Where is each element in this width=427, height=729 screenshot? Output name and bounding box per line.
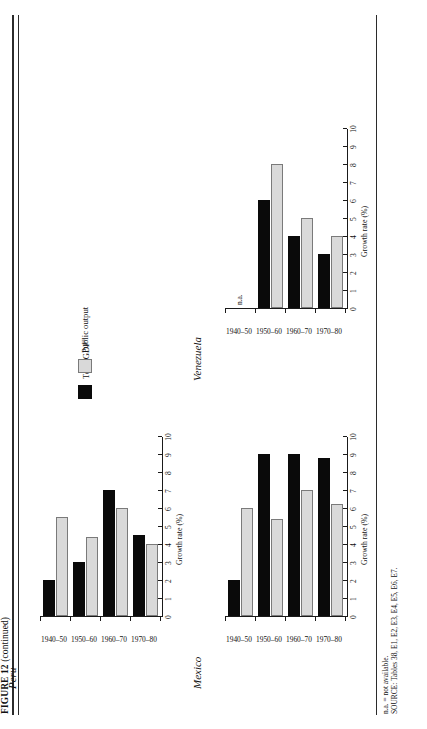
value-tick xyxy=(343,598,347,599)
value-tick xyxy=(158,580,162,581)
bar-public-output xyxy=(301,218,313,308)
value-tick xyxy=(158,562,162,563)
panel-title-venezuela: Venezuela xyxy=(191,337,203,381)
category-label: 1950–60 xyxy=(71,635,97,644)
value-tick xyxy=(343,254,347,255)
value-tick xyxy=(343,526,347,527)
category-label: 1940–50 xyxy=(226,327,252,336)
value-tick xyxy=(158,490,162,491)
category-tick xyxy=(255,309,256,313)
bar-total-gdp xyxy=(258,454,270,616)
value-tick-label: 2 xyxy=(350,263,358,283)
value-tick-label: 3 xyxy=(165,553,173,573)
bar-public-output xyxy=(86,537,98,616)
bar-total-gdp xyxy=(318,254,330,308)
category-tick xyxy=(285,617,286,621)
bar-public-output xyxy=(331,236,343,308)
value-tick xyxy=(343,164,347,165)
category-label: 1950–60 xyxy=(256,635,282,644)
bar-total-gdp xyxy=(228,580,240,616)
bar-public-output xyxy=(146,544,158,616)
value-tick xyxy=(343,128,347,129)
value-axis-line xyxy=(162,437,163,617)
value-tick xyxy=(343,146,347,147)
value-tick-label: 1 xyxy=(350,281,358,301)
na-label: n.a. xyxy=(235,294,244,305)
plot-area-mexico: 109876543210Growth rate (%)1940–501950–6… xyxy=(225,437,345,617)
bar-total-gdp xyxy=(318,458,330,616)
value-axis-line xyxy=(347,437,348,617)
value-tick xyxy=(158,508,162,509)
value-tick-label: 7 xyxy=(350,173,358,193)
bar-total-gdp xyxy=(73,562,85,616)
category-tick xyxy=(315,309,316,313)
plot-area-venezuela: 109876543210Growth rate (%)1940–50n.a.19… xyxy=(225,129,345,309)
category-label: 1970–80 xyxy=(316,635,342,644)
value-axis-title: Growth rate (%) xyxy=(360,514,369,565)
value-tick-label: 2 xyxy=(350,571,358,591)
bar-public-output xyxy=(56,517,68,616)
category-tick xyxy=(315,617,316,621)
category-tick xyxy=(70,617,71,621)
value-tick xyxy=(343,490,347,491)
category-tick xyxy=(40,617,41,621)
bar-total-gdp xyxy=(103,490,115,616)
value-tick-label: 9 xyxy=(165,445,173,465)
value-tick xyxy=(158,544,162,545)
value-tick-label: 0 xyxy=(350,299,358,319)
value-tick xyxy=(343,544,347,545)
value-tick-label: 1 xyxy=(165,589,173,609)
value-tick xyxy=(343,508,347,509)
value-tick-label: 7 xyxy=(165,481,173,501)
category-label: 1940–50 xyxy=(41,635,67,644)
category-tick xyxy=(345,309,346,313)
category-label: 1960–70 xyxy=(101,635,127,644)
figure-title: FIGURE 12 (continued) xyxy=(0,617,10,714)
category-tick xyxy=(130,617,131,621)
value-tick-label: 10 xyxy=(350,119,358,139)
figure-continued: (continued) xyxy=(0,617,10,662)
value-tick-label: 8 xyxy=(350,155,358,175)
category-tick xyxy=(100,617,101,621)
value-tick-label: 1 xyxy=(350,589,358,609)
category-tick xyxy=(255,617,256,621)
bar-public-output xyxy=(331,504,343,616)
value-tick xyxy=(158,472,162,473)
value-axis-line xyxy=(347,129,348,309)
category-label: 1960–70 xyxy=(286,327,312,336)
value-tick xyxy=(343,454,347,455)
legend-swatch-gdp xyxy=(78,385,92,399)
value-tick-label: 3 xyxy=(350,245,358,265)
legend-label-pub: Public output xyxy=(80,307,90,353)
value-tick xyxy=(343,472,347,473)
value-tick xyxy=(158,454,162,455)
value-tick-label: 6 xyxy=(350,499,358,519)
bar-public-output xyxy=(271,519,283,616)
value-tick-label: 6 xyxy=(165,499,173,519)
value-axis-title: Growth rate (%) xyxy=(175,514,184,565)
category-label: 1960–70 xyxy=(286,635,312,644)
category-tick xyxy=(285,309,286,313)
value-tick xyxy=(343,290,347,291)
legend-swatch-pub xyxy=(78,359,92,373)
value-tick-label: 5 xyxy=(350,209,358,229)
value-tick-label: 0 xyxy=(350,607,358,627)
value-tick-label: 10 xyxy=(350,427,358,447)
plot-area-peru: 109876543210Growth rate (%)1940–501950–6… xyxy=(40,437,160,617)
value-tick-label: 8 xyxy=(350,463,358,483)
category-tick xyxy=(160,617,161,621)
value-tick xyxy=(343,218,347,219)
category-tick xyxy=(345,617,346,621)
value-tick-label: 9 xyxy=(350,445,358,465)
value-tick-label: 4 xyxy=(350,227,358,247)
bar-public-output xyxy=(116,508,128,616)
bar-public-output xyxy=(301,490,313,616)
value-tick xyxy=(343,200,347,201)
value-tick-label: 7 xyxy=(350,481,358,501)
value-tick-label: 9 xyxy=(350,137,358,157)
panel-title-peru: Peru xyxy=(6,668,18,689)
value-tick-label: 4 xyxy=(165,535,173,555)
value-tick xyxy=(158,436,162,437)
value-tick-label: 2 xyxy=(165,571,173,591)
bar-public-output xyxy=(271,164,283,308)
